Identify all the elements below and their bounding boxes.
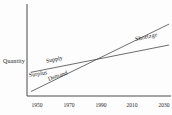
supply-demand-chart: Quantity Supply Surplus Demand Shortage … (0, 0, 172, 115)
x-tick-label-2030: 2030 (159, 102, 170, 109)
y-axis-label: Quantity (3, 58, 25, 64)
plot-area (0, 0, 172, 115)
x-tick-label-1950: 1950 (32, 102, 43, 109)
x-tick-label-1970: 1970 (64, 102, 75, 109)
x-tick-label-2010: 2010 (127, 102, 138, 109)
x-axis-tick-labels: 1950 1970 1990 2010 2030 (0, 102, 172, 112)
x-tick-label-1990: 1990 (96, 102, 107, 109)
